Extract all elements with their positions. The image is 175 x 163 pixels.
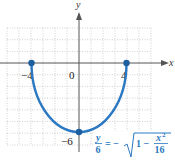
svg-text:= −: = − <box>105 138 119 149</box>
tick-label-neg6: −6 <box>61 135 73 147</box>
x-axis-label: x <box>168 57 174 68</box>
svg-text:1 −: 1 − <box>136 138 150 149</box>
chart-canvas: x y −4 0 4 −6 y 6 = − 1 − x 2 16 <box>0 0 175 163</box>
svg-text:6: 6 <box>96 144 101 155</box>
svg-text:16: 16 <box>155 144 165 155</box>
point-neg4-0 <box>28 60 34 66</box>
point-4-0 <box>123 60 129 66</box>
y-axis-arrow-icon <box>76 12 82 20</box>
svg-text:x: x <box>155 132 161 143</box>
svg-text:2: 2 <box>162 131 166 139</box>
y-axis-label: y <box>75 0 81 10</box>
equation-label: y 6 = − 1 − x 2 16 <box>93 131 171 161</box>
x-axis-arrow-icon <box>161 60 169 66</box>
svg-text:y: y <box>95 132 101 143</box>
point-0-neg6 <box>76 129 82 135</box>
tick-label-0: 0 <box>69 69 75 81</box>
